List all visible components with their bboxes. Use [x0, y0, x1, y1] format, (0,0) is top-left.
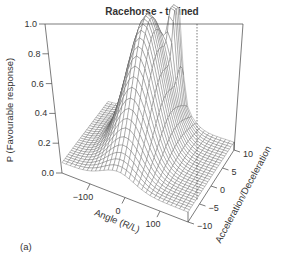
svg-text:100: 100: [145, 219, 160, 229]
svg-text:−10: −10: [197, 221, 212, 231]
svg-text:0.4: 0.4: [35, 108, 48, 118]
svg-text:5: 5: [232, 167, 237, 177]
z-axis-label: P (Favourable response): [4, 58, 15, 162]
svg-text:10: 10: [243, 149, 253, 159]
chart-title: Racehorse - trained: [105, 6, 198, 17]
surface-mesh: [62, 5, 234, 212]
svg-text:−100: −100: [73, 192, 93, 202]
svg-text:0.6: 0.6: [31, 79, 44, 89]
svg-text:0.0: 0.0: [41, 168, 54, 178]
svg-text:0.8: 0.8: [28, 49, 41, 59]
svg-text:0: 0: [220, 185, 225, 195]
svg-text:1.0: 1.0: [24, 19, 37, 29]
surface-chart: Racehorse - trained 0.00.20.40.60.81.0−1…: [0, 0, 284, 271]
svg-text:−5: −5: [209, 203, 219, 213]
panel-label: (a): [20, 241, 32, 252]
svg-text:0.2: 0.2: [38, 138, 51, 148]
